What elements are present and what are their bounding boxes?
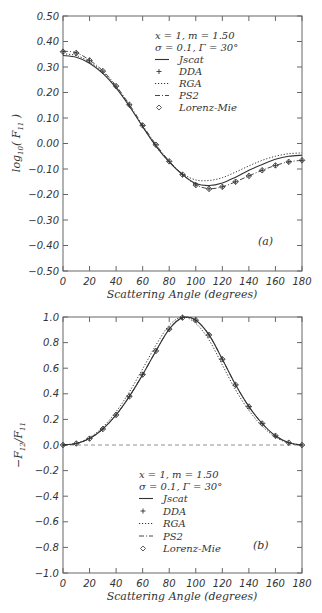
y-tick-label: 0.50 [37, 11, 59, 22]
y-tick-label: 0.00 [37, 138, 59, 149]
legend-b: x = 1, m = 1.50 σ = 0.1, Γ = 30° JscatDD… [139, 469, 222, 554]
legend-label: RGA [162, 518, 186, 529]
legend-swatch-lorenz-mie [157, 105, 162, 110]
legend-entries-b: JscatDDARGAPS2Lorenz-Mie [139, 493, 221, 554]
x-tick-label: 180 [292, 578, 311, 589]
x-tick-label: 120 [213, 578, 232, 589]
panel-a-chart: 020406080100120140160180 0.500.400.300.2… [10, 11, 312, 302]
y-tick-label: −0.2 [35, 465, 59, 476]
y-tick-label: 0.40 [37, 36, 59, 47]
y-tick-label: 0.4 [43, 388, 59, 399]
panel-label-a: (a) [258, 235, 273, 248]
y-tick-label: 0.2 [43, 414, 59, 425]
legend-label: Jscat [161, 493, 189, 504]
y-tick-label: −0.4 [35, 491, 59, 502]
legend-label: PS2 [162, 531, 183, 542]
y-tick-label: 0.20 [37, 87, 59, 98]
x-tick-label: 80 [163, 578, 176, 589]
y-tick-label: 0.30 [37, 62, 59, 73]
y-tick-label: −0.8 [35, 542, 59, 553]
y-tick-label: −0.50 [28, 266, 59, 277]
x-tick-label: 140 [239, 276, 258, 287]
legend-annotation-line2: σ = 0.1, Γ = 30° [139, 481, 222, 492]
x-tick-label: 140 [239, 578, 258, 589]
dda-marker [246, 173, 251, 178]
x-axis-title-b: Scattering Angle (degrees) [107, 590, 258, 603]
x-tick-label: 160 [266, 276, 285, 287]
series-line-jscat [63, 317, 302, 445]
legend-label: RGA [178, 78, 202, 89]
x-tick-label: 20 [83, 276, 96, 287]
series-line-ps2 [63, 317, 302, 445]
y-tick-label: 1.0 [43, 312, 59, 323]
legend-label: DDA [178, 66, 202, 77]
x-tick-label: 100 [186, 578, 205, 589]
dda-marker [273, 163, 278, 168]
legend-label: PS2 [178, 90, 199, 101]
x-tick-label: 20 [83, 578, 96, 589]
legend-label: Jscat [177, 54, 205, 65]
x-tick-label: 80 [163, 276, 176, 287]
y-tick-label: −0.10 [28, 164, 59, 175]
x-tick-label: 0 [60, 578, 66, 589]
y-axis-title-b: −F12/F11 [12, 422, 27, 468]
legend-swatch-lorenz-mie [141, 546, 146, 551]
legend-label: DDA [162, 506, 186, 517]
panel-label-b: (b) [253, 539, 269, 552]
series-b [60, 315, 305, 448]
legend-label: Lorenz-Mie [162, 543, 221, 554]
x-tick-label: 60 [136, 578, 149, 589]
y-tick-label: 0.6 [43, 363, 59, 374]
y-axis-title-a: log10( F11 ) [10, 114, 25, 172]
legend-annotation-line2: σ = 0.1, Γ = 30° [155, 42, 238, 53]
panel-b-chart: 020406080100120140160180 1.00.80.60.40.2… [12, 312, 312, 604]
x-axis-title-a: Scattering Angle (degrees) [107, 288, 258, 301]
x-tick-label: 0 [60, 276, 66, 287]
legend-swatch-dda [141, 509, 146, 514]
dda-marker [153, 348, 158, 353]
y-tick-label: −0.6 [35, 516, 59, 527]
y-tick-label: −0.40 [28, 240, 59, 251]
x-tick-label: 100 [186, 276, 205, 287]
legend-annotation-line1: x = 1, m = 1.50 [155, 30, 235, 41]
y-tick-label: 0.10 [37, 113, 59, 124]
legend-entries-a: JscatDDARGAPS2Lorenz-Mie [155, 54, 237, 113]
y-tick-label: −0.20 [28, 189, 59, 200]
dda-marker [233, 179, 238, 184]
y-tick-label: −0.30 [28, 215, 59, 226]
legend-annotation-line1: x = 1, m = 1.50 [139, 469, 219, 480]
legend-label: Lorenz-Mie [178, 102, 237, 113]
figure: 020406080100120140160180 0.500.400.300.2… [0, 0, 322, 613]
y-tick-label: −1.0 [35, 568, 59, 579]
x-tick-label: 120 [213, 276, 232, 287]
x-tick-label: 40 [110, 276, 123, 287]
y-tick-label: 0.8 [43, 337, 59, 348]
legend-swatch-dda [157, 69, 162, 74]
y-tick-label: 0.0 [43, 440, 59, 451]
x-tick-label: 180 [292, 276, 311, 287]
x-tick-label: 60 [136, 276, 149, 287]
x-tick-label: 160 [266, 578, 285, 589]
series-line-rga [63, 317, 302, 445]
x-tick-label: 40 [110, 578, 123, 589]
legend-a: x = 1, m = 1.50 σ = 0.1, Γ = 30° JscatDD… [155, 30, 238, 113]
